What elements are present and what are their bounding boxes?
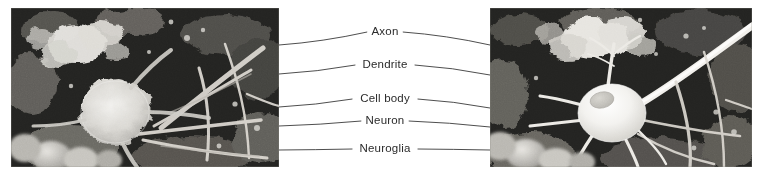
leader-line-left-cell-body: [279, 99, 352, 107]
leader-line-left-neuron: [279, 121, 361, 126]
leader-line-right-cell-body: [418, 99, 490, 108]
leader-line-left-axon: [279, 32, 367, 45]
label-neuron: Neuron: [363, 115, 408, 127]
right-electron-micrograph: [490, 8, 752, 167]
leader-line-right-neuroglia: [418, 149, 490, 150]
right-micrograph-image: [490, 8, 752, 167]
label-cell-body: Cell body: [357, 93, 413, 105]
left-micrograph-image: [11, 8, 279, 167]
label-dendrite: Dendrite: [359, 59, 410, 71]
label-axon: Axon: [368, 26, 401, 38]
label-neuroglia: Neuroglia: [356, 143, 413, 155]
leader-line-right-axon: [403, 32, 490, 45]
leader-line-right-neuron: [409, 121, 490, 127]
leader-line-left-dendrite: [279, 65, 355, 74]
left-electron-micrograph: [11, 8, 279, 167]
leader-line-left-neuroglia: [279, 149, 352, 150]
leader-line-right-dendrite: [415, 65, 490, 75]
labeled-micrograph-figure: AxonDendriteCell bodyNeuronNeuroglia: [0, 0, 764, 179]
